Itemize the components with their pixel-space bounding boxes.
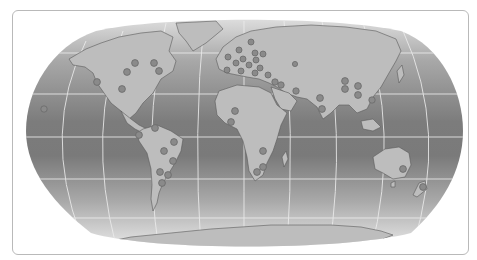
world-map[interactable]: [13, 11, 469, 255]
marker[interactable]: [236, 47, 242, 53]
marker[interactable]: [278, 82, 284, 88]
marker[interactable]: [252, 50, 258, 56]
marker[interactable]: [161, 148, 168, 155]
marker[interactable]: [265, 72, 271, 78]
marker[interactable]: [157, 169, 164, 176]
marker[interactable]: [342, 78, 349, 85]
marker[interactable]: [292, 61, 297, 66]
marker[interactable]: [151, 60, 158, 67]
marker[interactable]: [41, 106, 47, 112]
marker[interactable]: [319, 106, 326, 113]
marker[interactable]: [293, 88, 299, 94]
marker[interactable]: [355, 83, 362, 90]
marker[interactable]: [225, 54, 231, 60]
marker[interactable]: [272, 79, 278, 85]
marker[interactable]: [252, 70, 258, 76]
marker[interactable]: [400, 166, 407, 173]
marker[interactable]: [152, 125, 159, 132]
marker[interactable]: [257, 65, 263, 71]
marker[interactable]: [260, 51, 266, 57]
marker[interactable]: [238, 68, 244, 74]
marker[interactable]: [170, 158, 177, 165]
marker[interactable]: [369, 97, 375, 103]
marker[interactable]: [232, 108, 239, 115]
marker[interactable]: [224, 67, 230, 73]
marker[interactable]: [317, 95, 324, 102]
map-card: [12, 10, 469, 255]
marker[interactable]: [119, 86, 126, 93]
marker[interactable]: [132, 60, 139, 67]
marker[interactable]: [342, 86, 349, 93]
marker[interactable]: [253, 57, 259, 63]
marker[interactable]: [254, 169, 261, 176]
marker[interactable]: [260, 148, 267, 155]
marker[interactable]: [156, 68, 163, 75]
marker[interactable]: [124, 69, 131, 76]
marker[interactable]: [260, 164, 267, 171]
marker[interactable]: [233, 60, 239, 66]
marker[interactable]: [240, 56, 246, 62]
marker[interactable]: [246, 62, 252, 68]
marker[interactable]: [420, 184, 427, 191]
marker[interactable]: [94, 79, 101, 86]
marker[interactable]: [165, 172, 172, 179]
marker[interactable]: [136, 132, 143, 139]
marker[interactable]: [159, 180, 166, 187]
marker[interactable]: [355, 92, 362, 99]
marker[interactable]: [248, 39, 254, 45]
marker[interactable]: [228, 119, 235, 126]
marker[interactable]: [171, 139, 178, 146]
